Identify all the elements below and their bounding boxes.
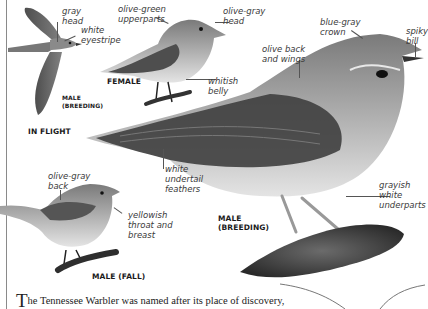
label-yellowish-throat-breast: yellowish throat and breast [128, 210, 173, 240]
label-olive-gray-back: olive-gray back [48, 171, 90, 191]
caption-female: FEMALE [107, 77, 141, 86]
label-spiky-bill: spiky bill [406, 26, 428, 46]
label-olive-gray-head: olive-gray head [223, 6, 265, 26]
label-blue-gray-crown: blue-gray crown [320, 17, 361, 37]
decorative-curve-right [380, 285, 425, 309]
caption-in-flight: IN FLIGHT [28, 127, 71, 136]
label-grayish-white-underparts: grayish white underparts [379, 180, 427, 210]
caption-male-breeding-flight: MALE (BREEDING) [62, 94, 103, 110]
label-whitish-belly: whitish belly [208, 76, 238, 96]
leader-white-undertail [163, 149, 164, 169]
leader-gray-head [57, 22, 58, 42]
label-olive-back-wings: olive back and wings [262, 44, 305, 64]
drop-cap: T [16, 290, 28, 309]
caption-male-breeding: MALE (BREEDING) [218, 214, 269, 232]
leader-olive-gray-back [60, 190, 61, 200]
body-text: he Tennessee Warbler was named after its… [28, 295, 285, 306]
body-paragraph: The Tennessee Warbler was named after it… [16, 294, 284, 308]
label-white-eyestripe: white eyestripe [81, 25, 121, 45]
decorative-curve-left [280, 284, 345, 309]
label-gray-head: gray head [62, 6, 83, 26]
caption-male-fall: MALE (FALL) [92, 272, 145, 281]
label-olive-green-upperparts: olive-green upperparts [118, 4, 166, 24]
label-white-undertail-feathers: white undertail feathers [165, 164, 203, 194]
